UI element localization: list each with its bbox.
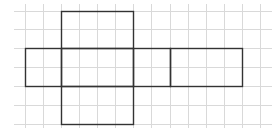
grid-diagram	[0, 0, 278, 132]
background-grid	[14, 4, 272, 128]
